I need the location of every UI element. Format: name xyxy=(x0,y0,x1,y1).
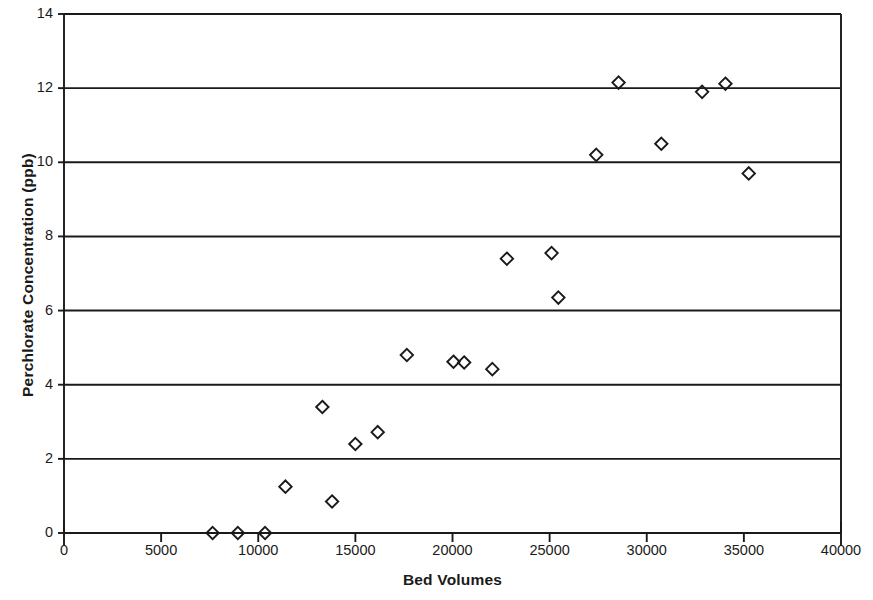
data-point xyxy=(501,252,513,264)
data-point xyxy=(372,426,384,438)
data-point xyxy=(545,247,557,259)
data-point xyxy=(349,438,361,450)
data-point xyxy=(326,495,338,507)
data-point xyxy=(401,349,413,361)
data-point-markers xyxy=(206,76,755,539)
data-point xyxy=(655,138,667,150)
axis-lines xyxy=(64,14,841,533)
gridlines xyxy=(64,14,841,459)
scatter-chart: Perchlorate Concentration (ppb) Bed Volu… xyxy=(0,0,873,600)
data-point xyxy=(486,363,498,375)
plot-area xyxy=(0,0,873,600)
data-point xyxy=(279,480,291,492)
data-point xyxy=(590,149,602,161)
data-point xyxy=(316,401,328,413)
tick-marks xyxy=(58,14,841,545)
data-point xyxy=(552,291,564,303)
data-point xyxy=(612,76,624,88)
data-point xyxy=(743,167,755,179)
